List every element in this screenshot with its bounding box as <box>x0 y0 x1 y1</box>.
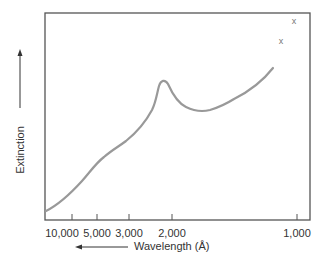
extinction-curve <box>46 68 273 211</box>
x-direction-arrow <box>75 245 128 250</box>
y-axis-label: Extinction <box>14 126 26 174</box>
x-axis-label: Wavelength (Å) <box>134 240 209 252</box>
x-tick-label: 3,000 <box>115 227 143 239</box>
data-marker-x: x <box>279 36 284 46</box>
plot-frame <box>45 13 310 220</box>
x-tick-label: 2,000 <box>158 227 186 239</box>
x-tick-label: 10,000 <box>45 227 79 239</box>
x-tick-label: 5,000 <box>83 227 111 239</box>
data-marker-x: x <box>292 16 297 26</box>
y-direction-arrow <box>18 49 23 108</box>
x-tick-label: 1,000 <box>283 227 311 239</box>
x-axis-ticks <box>72 214 297 220</box>
